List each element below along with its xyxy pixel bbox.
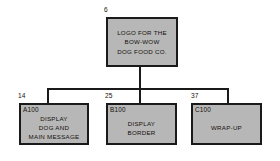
node-code-child-2: B100 xyxy=(110,106,126,114)
connector-trunk-vertical xyxy=(139,67,141,89)
node-box-child-3[interactable]: C100 WRAP-UP xyxy=(191,103,262,145)
node-line: BORDER xyxy=(128,128,156,137)
node-line: WRAP-UP xyxy=(211,123,242,132)
node-line: MAIN MESSAGE xyxy=(29,132,80,141)
connector-horizontal-bus xyxy=(47,88,229,90)
node-text-child-2: DISPLAY BORDER xyxy=(108,111,175,137)
connector-drop-right xyxy=(227,88,229,103)
node-text-child-3: WRAP-UP xyxy=(193,115,260,132)
node-box-root[interactable]: LOGO FOR THE BOW-WOW DOG FOOD CO. xyxy=(106,17,178,67)
node-number-root: 6 xyxy=(104,6,108,14)
node-code-child-3: C100 xyxy=(195,106,211,114)
node-line: DOG AND xyxy=(39,123,69,132)
node-line: BOW-WOW xyxy=(125,37,160,46)
node-number-child-1: 14 xyxy=(18,92,26,100)
node-line: DOG FOOD CO. xyxy=(117,47,166,56)
node-number-child-3: 37 xyxy=(191,92,199,100)
node-line: LOGO FOR THE xyxy=(117,28,167,37)
connector-drop-middle xyxy=(139,88,141,103)
node-text-root: LOGO FOR THE BOW-WOW DOG FOOD CO. xyxy=(108,28,176,56)
node-line: DISPLAY xyxy=(40,114,67,123)
node-line: DISPLAY xyxy=(128,119,155,128)
node-box-child-1[interactable]: A100 DISPLAY DOG AND MAIN MESSAGE xyxy=(19,103,89,145)
diagram-canvas: 6 LOGO FOR THE BOW-WOW DOG FOOD CO. 14 A… xyxy=(0,0,280,161)
node-code-child-1: A100 xyxy=(23,106,39,114)
connector-drop-left xyxy=(47,88,49,103)
node-number-child-2: 25 xyxy=(105,92,113,100)
node-box-child-2[interactable]: B100 DISPLAY BORDER xyxy=(106,103,177,145)
